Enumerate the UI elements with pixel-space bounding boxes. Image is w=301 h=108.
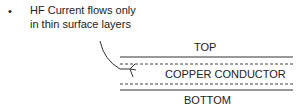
pointer-curve-icon <box>100 41 130 69</box>
label-copper-conductor: COPPER CONDUCTOR <box>165 68 286 81</box>
label-top: TOP <box>194 41 216 54</box>
arrow-split-icon <box>130 64 136 77</box>
conductor-diagram <box>0 0 301 108</box>
label-bottom: BOTTOM <box>184 94 231 107</box>
